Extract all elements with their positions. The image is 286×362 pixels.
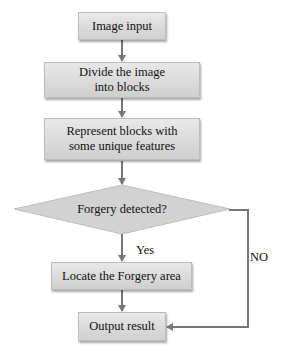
node-divide-blocks-label: Divide the image into blocks (75, 65, 169, 95)
decision-label: Forgery detected? (62, 202, 182, 216)
no-label: NO (250, 250, 268, 264)
node-image-input: Image input (78, 12, 166, 40)
node-represent-features: Represent blocks with some unique featur… (44, 118, 200, 160)
node-locate-forgery-label: Locate the Forgery area (62, 269, 181, 284)
connectors (0, 0, 286, 362)
yes-label: Yes (136, 243, 154, 257)
node-locate-forgery: Locate the Forgery area (51, 262, 192, 290)
node-represent-features-label: Represent blocks with some unique featur… (65, 124, 179, 154)
node-image-input-label: Image input (92, 19, 152, 34)
node-divide-blocks: Divide the image into blocks (44, 62, 200, 98)
node-output-result-label: Output result (89, 319, 155, 334)
node-output-result: Output result (78, 312, 166, 341)
